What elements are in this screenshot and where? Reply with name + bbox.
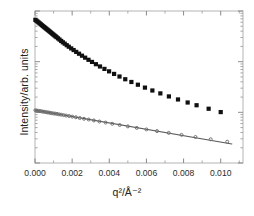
figure-container: 0.0000.0020.0040.0060.0080.010 Intensity… bbox=[0, 0, 254, 216]
svg-text:0.010: 0.010 bbox=[210, 168, 232, 178]
plot-canvas: 0.0000.0020.0040.0060.0080.010 bbox=[0, 0, 254, 216]
x-axis-label-text: q²/Å⁻² bbox=[113, 186, 142, 198]
y-axis-label: Intensity/arb. units bbox=[18, 22, 30, 162]
x-axis-tick-labels: 0.0000.0020.0040.0060.0080.010 bbox=[24, 168, 231, 178]
svg-text:0.004: 0.004 bbox=[99, 168, 121, 178]
svg-text:0.006: 0.006 bbox=[136, 168, 158, 178]
x-axis-label: q²/Å⁻² bbox=[0, 186, 254, 198]
svg-text:0.008: 0.008 bbox=[173, 168, 195, 178]
svg-text:0.000: 0.000 bbox=[24, 168, 46, 178]
svg-text:0.002: 0.002 bbox=[61, 168, 83, 178]
